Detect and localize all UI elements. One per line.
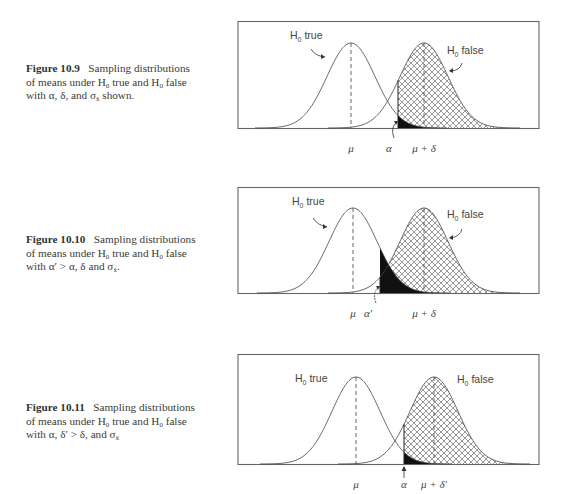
h0-false-label: H0 false [457, 373, 494, 387]
figure-label: Figure 10.10 [26, 233, 85, 245]
power-region [404, 377, 530, 464]
alpha-label: α [401, 478, 407, 490]
figure-label: Figure 10.11 [26, 401, 85, 413]
figure-plot-10-11: H0 trueH0 falseμαμ + δ′ [237, 354, 541, 494]
caption-text: with α′ > α, δ and σ [26, 260, 113, 272]
figure-plot-10-9: H0 trueH0 falseμαμ + δ [237, 21, 541, 161]
alpha-arrow-icon [375, 287, 379, 303]
caption-text: with α, δ, and σ [26, 89, 96, 101]
h0-true-label: H0 true [295, 372, 328, 386]
mu-label: μ [347, 142, 354, 154]
caption-text: shown. [100, 89, 135, 101]
arrowhead-icon [376, 286, 380, 290]
caption-text: with α, δ′ > δ, and σ [26, 428, 116, 440]
mu-plus-delta-label: μ + δ [411, 307, 436, 319]
arrowhead-icon [449, 68, 453, 73]
caption-text: Sampling distributions [94, 233, 196, 245]
mu-plus-delta-label: μ + δ′ [420, 478, 448, 490]
mu-label: μ [349, 307, 356, 319]
mu-label: μ [352, 478, 359, 490]
plot-frame [238, 22, 539, 129]
h0-false-label: H0 false [447, 44, 484, 58]
figure-label: Figure 10.9 [26, 62, 80, 74]
alpha-arrow-icon [393, 122, 397, 138]
arrowhead-icon [402, 466, 407, 471]
caption-text: of means under H [26, 415, 106, 427]
alpha-label: α′ [364, 307, 373, 319]
caption-text: true and H [109, 247, 159, 259]
h0-false-label: H0 false [447, 208, 484, 222]
caption-text: true and H [109, 76, 159, 88]
caption-sub: x̄ [116, 434, 120, 442]
caption-text: of means under H [26, 76, 106, 88]
h0-true-label: H0 true [290, 29, 323, 43]
power-region [380, 208, 520, 293]
figure-caption-10-10: Figure 10.10 Sampling distributions of m… [26, 233, 236, 274]
figure-caption-10-11: Figure 10.11 Sampling distributions of m… [26, 401, 236, 442]
h0-true-label: H0 true [292, 195, 325, 209]
caption-text: false [163, 415, 187, 427]
caption-text: false [163, 247, 187, 259]
mu-plus-delta-label: μ + δ [411, 142, 436, 154]
arrowhead-icon [449, 235, 453, 240]
caption-text: Sampling distributions [93, 401, 195, 413]
caption-text: of means under H [26, 247, 106, 259]
figure-caption-10-9: Figure 10.9 Sampling distributions of me… [26, 62, 236, 103]
plot-frame [238, 355, 539, 465]
alpha-label: α [386, 142, 392, 154]
figure-plot-10-10: H0 trueH0 falseμα′μ + δ [237, 187, 541, 327]
arrowhead-icon [321, 54, 325, 59]
caption-text: true and H [109, 415, 159, 427]
caption-text: Sampling distributions [88, 62, 190, 74]
caption-text: false [163, 76, 187, 88]
caption-text: . [117, 260, 120, 272]
